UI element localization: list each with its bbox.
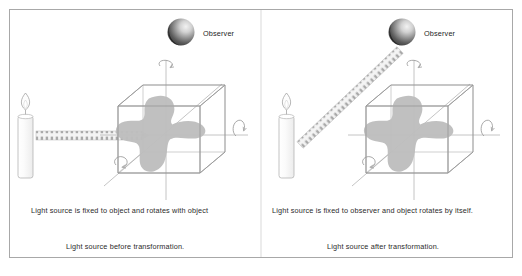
outer-caption-right: Light source after transformation. xyxy=(327,242,439,251)
inner-caption-left: Light source is fixed to object and rota… xyxy=(31,206,208,215)
outer-caption-left: Light source before transformation. xyxy=(66,242,184,251)
observer-label-left: Observer xyxy=(203,29,234,38)
inner-caption-right: Light source is fixed to observer and ob… xyxy=(272,206,473,215)
observer-label-right: Observer xyxy=(424,29,455,38)
figure-canvas: Observer Observer Light source is fixed … xyxy=(0,0,522,276)
figure-border xyxy=(9,9,513,258)
